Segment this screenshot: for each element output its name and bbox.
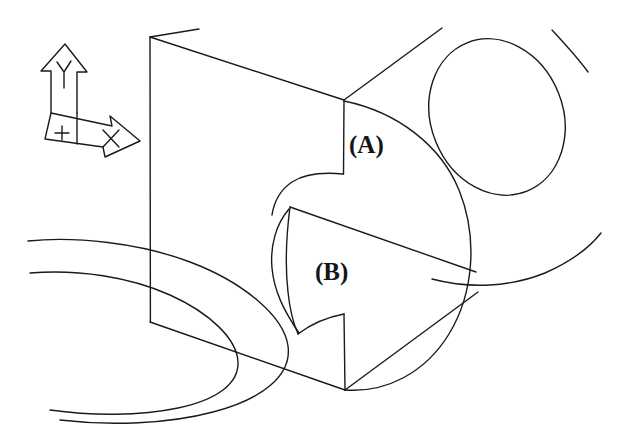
top-right-diagonal-edge (344, 28, 442, 100)
cylinder-inner-arc (272, 209, 299, 333)
sketch-canvas: (A) (B) (0, 0, 627, 444)
base-arc-outer (28, 239, 288, 423)
step-b-lower-diagonal (345, 292, 478, 390)
step-b-fillet (298, 314, 344, 334)
x-axis-letter-glyph (103, 130, 119, 147)
top-stub-edge (150, 29, 199, 37)
x-axis-block-arrow (45, 113, 140, 157)
notch-a-fillet (272, 173, 344, 215)
bottom-front-edge (150, 322, 345, 390)
base-arc-inner (30, 272, 238, 414)
right-vertical-edge-a (344, 101, 345, 174)
callout-label-a: (A) (349, 131, 384, 159)
line-drawing (0, 0, 627, 444)
callout-label-b: (B) (315, 258, 348, 286)
y-axis-letter-glyph (57, 61, 71, 88)
upper-right-edge-stroke (552, 30, 588, 72)
plus-origin-glyph (55, 126, 69, 140)
right-sweep-arc (432, 233, 601, 285)
step-b-vertical-edge (344, 314, 345, 390)
elliptical-hole (406, 18, 588, 216)
top-front-edge (150, 37, 344, 100)
